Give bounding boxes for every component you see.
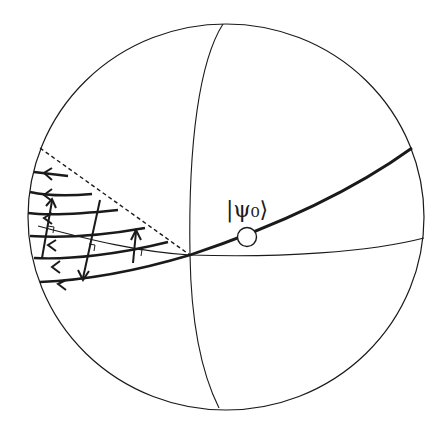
arrow-icon xyxy=(48,240,56,251)
flow-line-3 xyxy=(28,210,118,214)
arrow-icon xyxy=(52,261,60,273)
flow-line-2 xyxy=(30,192,92,195)
state-point-psi0 xyxy=(238,228,257,247)
transverse-arrows xyxy=(42,199,141,280)
bloch-sphere-figure xyxy=(0,0,444,432)
meridian-curve xyxy=(190,24,223,408)
dashed-boundary xyxy=(40,148,190,255)
state-label-psi0: |ψ₀⟩ xyxy=(226,197,268,222)
geodesic-curve xyxy=(190,148,412,255)
flow-line-1 xyxy=(34,172,68,176)
